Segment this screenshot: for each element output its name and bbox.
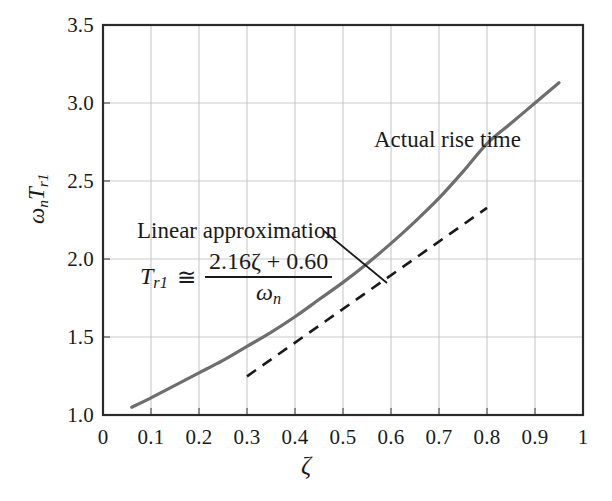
x-tick-label: 0.7 — [426, 425, 453, 450]
x-tick-label: 0.4 — [282, 425, 309, 450]
formula-lhs: Tr1 — [140, 263, 168, 293]
x-tick-label: 0.2 — [186, 425, 213, 450]
annotation-linear-approximation: Linear approximation — [137, 218, 337, 244]
formula-numerator: 2.16ζ + 0.60 — [205, 249, 332, 276]
y-axis-omega: ω — [24, 208, 49, 224]
y-tick-label: 3.5 — [42, 13, 94, 38]
annotation-rise-time-formula: Tr1 ≅ 2.16ζ + 0.60 ωn — [140, 249, 332, 307]
x-axis-title: ζ — [0, 452, 612, 480]
formula-denominator: ωn — [252, 278, 285, 307]
x-tick-label: 1 — [578, 425, 589, 450]
formula-relation: ≅ — [177, 264, 196, 291]
y-axis-title: ωnTr1 — [24, 169, 51, 229]
y-tick-label: 1.0 — [42, 403, 94, 428]
x-tick-label: 0 — [98, 425, 109, 450]
formula-lhs-subscript: r1 — [153, 273, 168, 292]
x-tick-label: 0.9 — [522, 425, 549, 450]
x-tick-label: 0.6 — [378, 425, 405, 450]
y-axis-omega-subscript: n — [34, 200, 51, 208]
x-tick-label: 0.1 — [138, 425, 165, 450]
y-axis-t: T — [24, 187, 49, 200]
y-axis-t-subscript: r1 — [34, 173, 51, 187]
annotation-actual-rise-time: Actual rise time — [374, 127, 521, 153]
formula-denominator-subscript: n — [273, 288, 281, 307]
y-tick-label: 2.0 — [42, 247, 94, 272]
x-axis-symbol: ζ — [301, 452, 311, 479]
y-tick-label: 1.5 — [42, 325, 94, 350]
rise-time-chart: 00.10.20.30.40.50.60.70.80.91 1.01.52.02… — [0, 0, 612, 501]
x-tick-label: 0.8 — [474, 425, 501, 450]
formula-fraction: 2.16ζ + 0.60 ωn — [205, 249, 332, 307]
formula-denominator-symbol: ω — [256, 279, 273, 305]
y-tick-label: 3.0 — [42, 91, 94, 116]
x-tick-label: 0.5 — [330, 425, 357, 450]
formula-lhs-symbol: T — [140, 263, 153, 289]
x-tick-label: 0.3 — [234, 425, 261, 450]
